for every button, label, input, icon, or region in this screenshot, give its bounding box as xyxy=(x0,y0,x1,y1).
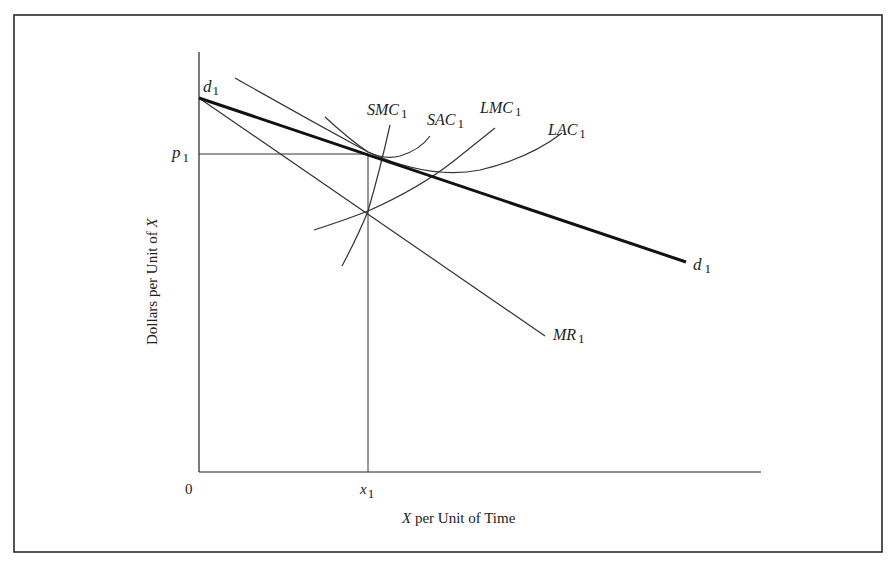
x-axis-title: X per Unit of Time xyxy=(401,510,516,526)
lmc-curve xyxy=(314,128,495,230)
lac-label: LAC1 xyxy=(547,121,586,141)
x1-label: x1 xyxy=(359,481,374,501)
chart-figure: d1 d1 p1 x1 SMC1 SAC1 LMC1 LAC1 MR1 0 X … xyxy=(0,0,895,567)
d1-left-label: d1 xyxy=(203,77,219,98)
mr-label: MR1 xyxy=(552,326,585,346)
smc-label: SMC1 xyxy=(367,101,408,121)
p1-label: p1 xyxy=(171,143,189,165)
d1-right-label: d1 xyxy=(693,255,711,276)
lmc-label: LMC1 xyxy=(479,99,521,119)
mr-curve xyxy=(199,98,545,336)
y-axis-title: Dollars per Unit of X xyxy=(144,218,160,345)
origin-label: 0 xyxy=(185,481,193,497)
sac-label: SAC1 xyxy=(427,111,464,131)
title-clip-area xyxy=(0,0,895,2)
smc-curve xyxy=(342,125,390,266)
